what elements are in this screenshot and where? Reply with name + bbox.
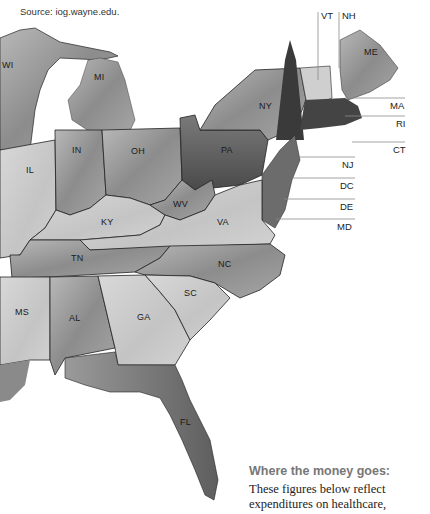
state-shape-mi [68,58,135,135]
state-label-ga: GA [137,312,150,322]
state-label-ky: KY [101,217,113,227]
leader-label-ri: RI [396,118,406,129]
caption-title: Where the money goes: [249,464,430,478]
state-label-il: IL [26,165,34,175]
leader-label-ct: CT [393,144,406,155]
state-label-in: IN [72,145,81,155]
state-label-pa: PA [221,145,233,155]
state-label-wi: WI [2,60,13,70]
caption-body: These figures below reflect expenditures… [249,482,430,512]
caption-line-1: These figures below reflect [249,482,385,496]
state-label-tn: TN [71,253,83,263]
state-label-al: AL [69,313,80,323]
state-shape-la-edge [0,360,30,402]
leader-label-vt: VT [321,10,333,21]
state-label-wv: WV [173,199,188,209]
eastern-us-relief-map [0,0,430,514]
state-label-sc: SC [184,288,197,298]
state-label-mi: MI [94,72,104,82]
state-shape-nj-de-md [262,135,300,228]
leader-label-dc: DC [340,180,354,191]
state-shape-ms [0,277,50,365]
state-label-va: VA [217,217,229,227]
leader-label-md: MD [337,221,352,232]
leader-label-ma: MA [390,100,404,111]
caption-line-2: expenditures on healthcare, [249,497,386,511]
state-shape-fl [65,352,218,500]
leader-label-nh: NH [342,10,356,21]
state-shape-oh [102,128,182,205]
state-label-me: ME [364,47,378,57]
state-shape-me [340,30,398,100]
state-label-fl: FL [180,417,191,427]
source-attribution: Source: iog.wayne.edu. [20,6,119,17]
state-label-ms: MS [15,307,29,317]
state-label-oh: OH [131,146,145,156]
state-label-ny: NY [259,101,272,111]
caption: Where the money goes: These figures belo… [249,464,430,512]
state-shape-ma-ri-ct [300,98,362,130]
leader-label-nj: NJ [342,159,354,170]
state-label-nc: NC [218,259,231,269]
leader-label-de: DE [340,201,353,212]
